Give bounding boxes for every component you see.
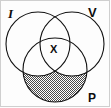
venn-diagram-figure: I V X P [0, 0, 111, 108]
shaded-region-group [6, 12, 104, 102]
set-label-v: V [88, 6, 97, 19]
set-label-i: I [8, 7, 13, 20]
region-label-x: X [50, 44, 57, 55]
set-label-p: P [88, 92, 96, 104]
